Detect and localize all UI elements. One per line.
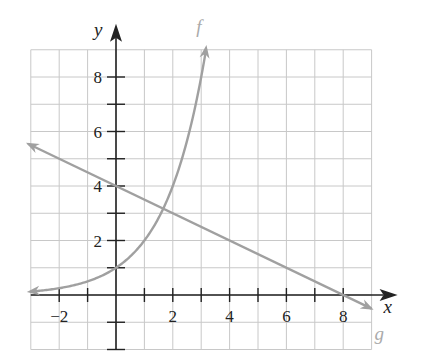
- x-tick-label: 2: [169, 307, 178, 326]
- curves: [26, 45, 374, 310]
- series-g-label: g: [375, 323, 385, 344]
- x-tick-label: −2: [50, 307, 68, 326]
- x-tick-label: 8: [339, 307, 348, 326]
- y-tick-label: 4: [94, 177, 103, 196]
- x-axis-label: x: [383, 296, 393, 317]
- series-f-label: f: [196, 16, 204, 37]
- y-tick-label: 2: [94, 232, 103, 251]
- series-f-line: [31, 53, 206, 291]
- x-tick-label: 6: [282, 307, 291, 326]
- grid: [31, 50, 372, 350]
- y-axis-label: y: [92, 19, 103, 40]
- y-tick-label: 8: [94, 68, 103, 87]
- y-tick-label: 6: [94, 123, 103, 142]
- graph: −224682468yxfg: [0, 0, 421, 359]
- x-tick-label: 4: [225, 307, 234, 326]
